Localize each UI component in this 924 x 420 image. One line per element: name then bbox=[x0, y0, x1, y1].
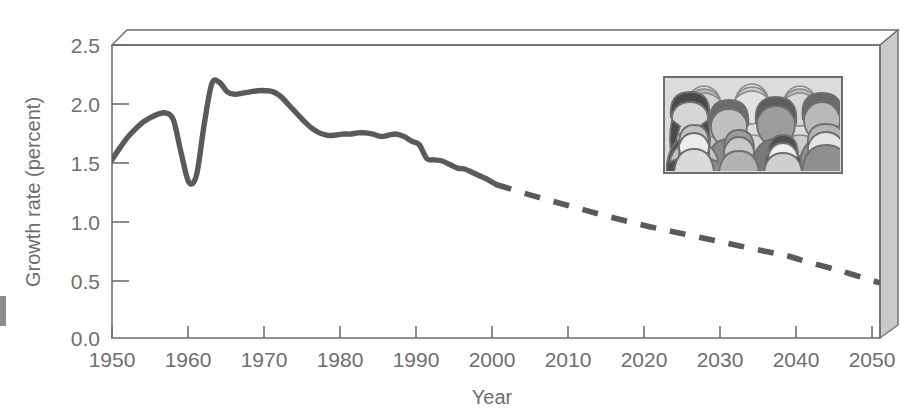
figure-container: 2.5 2.0 1.5 1.0 0.5 0.0 1950 1960 1970 1… bbox=[0, 0, 924, 420]
y-tick-label-0_5: 0.5 bbox=[71, 270, 100, 293]
x-tick-label-2010: 2010 bbox=[545, 348, 592, 371]
x-axis-title: Year bbox=[472, 386, 513, 408]
x-tick-label-1960: 1960 bbox=[165, 348, 212, 371]
growth-rate-chart: 2.5 2.0 1.5 1.0 0.5 0.0 1950 1960 1970 1… bbox=[0, 0, 924, 420]
y-axis-title: Growth rate (percent) bbox=[22, 97, 44, 287]
x-tick-label-2050: 2050 bbox=[849, 348, 896, 371]
x-axis-ticks bbox=[112, 326, 872, 338]
x-tick-label-1970: 1970 bbox=[241, 348, 288, 371]
x-tick-label-1980: 1980 bbox=[317, 348, 364, 371]
y-tick-label-2_0: 2.0 bbox=[71, 93, 100, 116]
y-axis-ticks bbox=[112, 45, 129, 281]
x-tick-label-2030: 2030 bbox=[697, 348, 744, 371]
x-tick-label-2040: 2040 bbox=[773, 348, 820, 371]
y-tick-label-1_5: 1.5 bbox=[71, 152, 100, 175]
y-tick-label-1_0: 1.0 bbox=[71, 211, 100, 234]
x-tick-label-1950: 1950 bbox=[89, 348, 136, 371]
box-right-face bbox=[880, 30, 898, 338]
x-tick-label-2000: 2000 bbox=[469, 348, 516, 371]
x-tick-label-1990: 1990 bbox=[393, 348, 440, 371]
series-observed-line bbox=[112, 80, 496, 185]
box-top-face bbox=[112, 30, 898, 45]
crowd-illustration-inset bbox=[664, 77, 850, 175]
x-tick-label-2020: 2020 bbox=[621, 348, 668, 371]
y-tick-label-2_5: 2.5 bbox=[71, 34, 100, 57]
y-tick-label-0_0: 0.0 bbox=[71, 327, 100, 350]
series-projected-line bbox=[496, 184, 880, 282]
